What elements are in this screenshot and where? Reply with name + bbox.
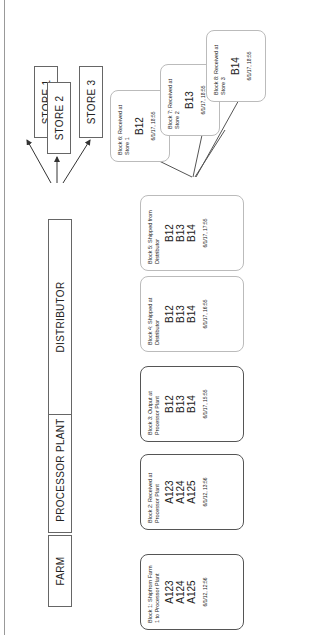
store-2-box: STORE 2 [47,82,71,154]
block-5: Block 5: Shipped from Distributor B12B13… [140,195,244,271]
block-4: Block 4: Shipped at Distributor B12B13B1… [140,276,244,352]
block-timestamp: 6/1/17, 18:55 [150,111,156,140]
block-8: Block 8: Received at Store 3 B14 6/1/17,… [206,30,266,102]
block-id: B13 [175,395,186,413]
block-title: Block 2: Received at Processor Plant [147,461,160,523]
block-id: A123 [164,580,175,603]
block-timestamp: 6/1/17, 15:55 [202,389,208,418]
block-id: B13 [184,91,195,109]
block-timestamp: 6/1/12, 12:56 [202,577,208,606]
block-timestamp: 6/1/12, 13:56 [202,477,208,506]
distributor-label: DISTRIBUTOR [55,282,66,353]
block-id: A125 [186,580,197,603]
block-id: B14 [186,395,197,413]
block-title: Block 8: Received at Store 3 [213,37,226,95]
block-id: A124 [175,480,186,503]
block-id: B12 [164,305,175,323]
block-id: A125 [186,480,197,503]
block-title: Block 5: Shipped from Distributor [147,202,160,264]
block-id: B13 [175,305,186,323]
block-id: A123 [164,480,175,503]
block-id: B14 [186,224,197,242]
store-3-label: STORE 3 [86,80,97,125]
processor-plant-box: PROCESSOR PLANT [48,407,72,533]
block-title: Block 4: Shipped at Distributor [147,283,160,345]
block-id: A124 [175,580,186,603]
block-id: B12 [134,117,145,135]
processor-plant-label: PROCESSOR PLANT [55,418,66,521]
block-title: Block 1: Shipfrom Farm 1 to Processor Pl… [147,561,160,623]
block-id: B14 [186,305,197,323]
store-3-box: STORE 3 [79,66,103,138]
block-1: Block 1: Shipfrom Farm 1 to Processor Pl… [140,554,244,630]
block-timestamp: 6/1/17, 17:55 [202,218,208,247]
block-3: Block 3: Output at Processor Plant B12B1… [140,366,244,442]
block-title: Block 3: Output at Processor Plant [147,373,160,435]
farm-box: FARM [48,535,72,607]
block-id: B12 [164,224,175,242]
block-timestamp: 6/1/17, 16:55 [202,299,208,328]
block-id: B13 [175,224,186,242]
block-timestamp: 6/1/17, 18:55 [246,51,252,80]
block-2: Block 2: Received at Processor Plant A12… [140,454,244,530]
block-id: B12 [164,395,175,413]
store-2-label: STORE 2 [54,96,65,141]
block-title: Block 6: Received at Store 1 [117,97,130,155]
block-id: B14 [230,57,241,75]
block-title: Block 7: Received at Store 2 [167,71,180,129]
distributor-box: DISTRIBUTOR [48,219,72,415]
farm-label: FARM [55,557,66,586]
